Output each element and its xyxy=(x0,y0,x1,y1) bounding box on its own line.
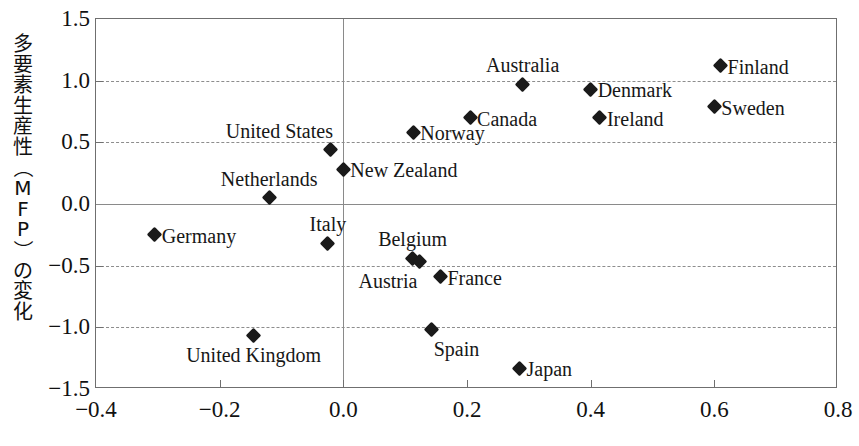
data-point-label: Denmark xyxy=(598,80,672,100)
data-point-label: France xyxy=(447,268,501,288)
diamond-marker-icon xyxy=(336,162,352,178)
y-tick-label: −1.0 xyxy=(48,314,90,340)
diamond-marker-icon xyxy=(583,82,599,98)
diamond-marker-icon xyxy=(592,110,608,126)
data-point-label: United States xyxy=(226,121,333,141)
diamond-marker-icon xyxy=(147,227,163,243)
x-tick-label: −0.4 xyxy=(75,397,117,423)
data-point-label: Norway xyxy=(420,123,484,143)
y-axis-title: 多要素生産性（MFP）の変化 xyxy=(6,34,40,394)
y-tick-label: 0.5 xyxy=(61,129,90,155)
data-point-label: Spain xyxy=(434,339,480,359)
y-tick xyxy=(96,81,103,82)
x-tick-label: 0.8 xyxy=(824,397,853,423)
gridline-y xyxy=(96,204,836,205)
x-tick xyxy=(591,380,592,387)
y-axis-title-char: 化 xyxy=(6,302,40,323)
data-point-label: Finland xyxy=(728,57,789,77)
data-point-label: United Kingdom xyxy=(186,345,321,365)
data-point-label: Netherlands xyxy=(221,169,318,189)
diamond-marker-icon xyxy=(405,125,421,141)
zero-vertical-line xyxy=(343,19,344,387)
data-point-label: Italy xyxy=(310,214,347,234)
y-axis-title-char: 変 xyxy=(6,281,40,302)
diamond-marker-icon xyxy=(320,236,336,252)
plot-area: 1.51.00.50.0−0.5−1.0−1.5−0.4−0.20.00.20.… xyxy=(95,18,837,388)
x-tick-label: 0.6 xyxy=(700,397,729,423)
y-tick-label: 0.0 xyxy=(61,191,90,217)
y-tick-label: 1.5 xyxy=(61,6,90,32)
y-tick-label: −0.5 xyxy=(48,253,90,279)
x-tick-label: −0.2 xyxy=(199,397,241,423)
diamond-marker-icon xyxy=(515,77,531,93)
y-tick xyxy=(96,327,103,328)
data-point-label: Belgium xyxy=(378,229,447,249)
gridline-y xyxy=(96,327,836,328)
x-tick xyxy=(343,380,344,387)
diamond-marker-icon xyxy=(246,328,262,344)
x-tick-label: 0.4 xyxy=(576,397,605,423)
x-tick xyxy=(714,380,715,387)
y-tick-label: 1.0 xyxy=(61,68,90,94)
y-tick xyxy=(96,142,103,143)
diamond-marker-icon xyxy=(512,360,528,376)
data-point-label: New Zealand xyxy=(350,160,457,180)
y-axis-title-char: 多 xyxy=(6,34,40,55)
data-point-label: Sweden xyxy=(721,98,784,118)
data-point-label: Germany xyxy=(162,226,236,246)
gridline-y xyxy=(96,81,836,82)
data-point-label: Austria xyxy=(358,271,417,291)
data-point-label: Canada xyxy=(477,109,537,129)
x-tick-label: 0.2 xyxy=(453,397,482,423)
diamond-marker-icon xyxy=(433,269,449,285)
y-axis-title-char: 生 xyxy=(6,96,40,117)
diamond-marker-icon xyxy=(713,58,729,74)
data-point-label: Japan xyxy=(527,359,573,379)
x-tick xyxy=(467,380,468,387)
data-point-label: Australia xyxy=(486,55,559,75)
y-axis-title-char: 素 xyxy=(6,75,40,96)
y-axis-title-char: 要 xyxy=(6,55,40,76)
chart-page: 多要素生産性（MFP）の変化 1.51.00.50.0−0.5−1.0−1.5−… xyxy=(0,0,859,446)
diamond-marker-icon xyxy=(424,322,440,338)
y-tick xyxy=(96,266,103,267)
diamond-marker-icon xyxy=(323,142,339,158)
data-point-label: Ireland xyxy=(607,109,664,129)
x-tick xyxy=(220,380,221,387)
y-axis-title-char: F xyxy=(6,199,40,220)
y-axis-title-char: （ xyxy=(13,151,34,185)
x-tick-label: 0.0 xyxy=(329,397,358,423)
diamond-marker-icon xyxy=(707,99,723,115)
y-axis-title-char: ） xyxy=(13,233,34,267)
y-axis-title-char: 産 xyxy=(6,116,40,137)
